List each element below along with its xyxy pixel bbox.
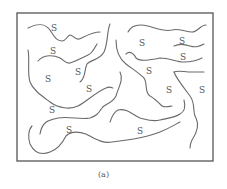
region-label-s: S bbox=[49, 105, 55, 115]
region-label-s: S bbox=[139, 38, 145, 48]
figure-caption: (a) bbox=[98, 170, 109, 179]
curve-line bbox=[174, 72, 198, 148]
label-group: SSSSSSSSSSSSSS bbox=[45, 23, 205, 136]
region-label-s: S bbox=[199, 85, 205, 95]
figure-diagram: SSSSSSSSSSSSSS (a) bbox=[0, 0, 227, 189]
region-label-s: S bbox=[179, 36, 185, 46]
region-label-s: S bbox=[86, 84, 92, 94]
region-label-s: S bbox=[51, 23, 57, 33]
region-label-s: S bbox=[66, 125, 72, 135]
curve-line bbox=[116, 40, 172, 107]
region-label-s: S bbox=[45, 74, 51, 84]
curve-line bbox=[128, 25, 206, 32]
region-label-s: S bbox=[180, 52, 186, 62]
region-label-s: S bbox=[166, 85, 172, 95]
region-label-s: S bbox=[75, 67, 81, 77]
curve-line bbox=[174, 71, 204, 72]
region-label-s: S bbox=[50, 46, 56, 56]
curve-line bbox=[29, 122, 180, 154]
curve-line bbox=[110, 100, 185, 122]
curve-line bbox=[28, 25, 100, 42]
curve-line bbox=[38, 44, 97, 63]
curve-line bbox=[126, 52, 202, 62]
region-label-s: S bbox=[146, 66, 152, 76]
region-label-s: S bbox=[137, 126, 143, 136]
